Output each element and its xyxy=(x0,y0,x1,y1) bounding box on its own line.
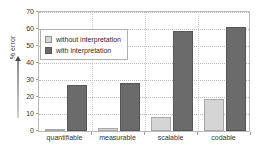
x-tick-label-measurable: measurable xyxy=(91,134,144,141)
light-gray-swatch-icon xyxy=(45,36,52,43)
y-tick-label: 0 xyxy=(16,127,34,134)
x-tick-mark xyxy=(250,132,251,135)
bar-scalable-without xyxy=(151,117,171,131)
y-axis-label-group: % error xyxy=(0,18,24,128)
dark-gray-swatch-icon xyxy=(45,47,52,54)
x-tick-label-quantifiable: quantifiable xyxy=(38,134,91,141)
y-tick-label: 70 xyxy=(16,8,34,15)
x-tick-label-codable: codable xyxy=(197,134,250,141)
bar-chart-figure: % error 010203040506070 quantifiablemeas… xyxy=(0,0,264,151)
bar-scalable-with xyxy=(173,31,193,131)
bar-measurable-with xyxy=(120,83,140,131)
bar-quantifiable-with xyxy=(67,85,87,131)
x-tick-label-scalable: scalable xyxy=(144,134,197,141)
bar-group xyxy=(145,12,198,131)
legend-label-without-interpretation: without interpretation xyxy=(56,36,121,43)
legend-label-with-interpretation: with interpretation xyxy=(56,47,111,54)
bar-measurable-without xyxy=(98,128,118,131)
y-axis-label: % error xyxy=(9,22,16,74)
legend-item-with-interpretation: with interpretation xyxy=(45,45,121,55)
bar-codable-without xyxy=(204,99,224,131)
chart-legend: without interpretation with interpretati… xyxy=(40,29,128,60)
bar-group xyxy=(198,12,251,131)
y-axis-arrow-icon xyxy=(17,60,19,118)
bar-codable-with xyxy=(226,27,246,131)
legend-item-without-interpretation: without interpretation xyxy=(45,34,121,44)
bar-quantifiable-without xyxy=(45,129,65,131)
